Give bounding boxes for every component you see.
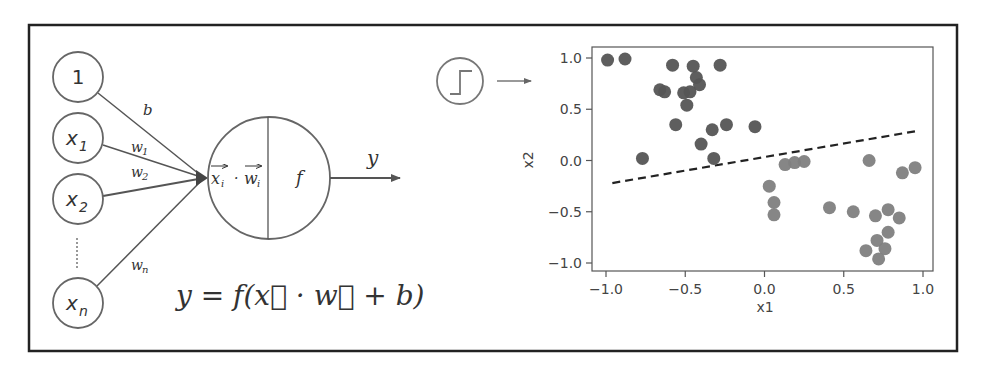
data-point-class-b [798,155,811,168]
weight-label-w2: w 2 [131,164,148,182]
input-node-bias: 1 [53,52,103,102]
sum-x-symbol: x [211,169,220,188]
input-node-x2: x 2 [53,174,103,224]
weight-subscript: 2 [141,171,148,182]
step-function-icon [437,58,483,104]
x-tick-label: 0.5 [833,281,855,297]
x-tick-label: 0.0 [753,281,775,297]
input-node-subscript: n [79,303,88,319]
data-point-class-b [896,166,909,179]
weight-subscript: 1 [142,146,148,157]
data-point-class-a [720,118,733,131]
x-tick-label: −1.0 [589,281,623,297]
x-axis-ticks: −1.0−0.50.00.51.0 [589,271,934,297]
data-point-class-a [666,59,679,72]
data-point-class-b [882,203,895,216]
data-point-class-b [882,226,895,239]
input-node-label: x [65,291,78,315]
y-tick-label: −0.5 [548,204,582,220]
weight-label-b: b [143,101,153,119]
data-point-class-a [601,54,614,67]
data-point-class-b [872,252,885,265]
y-tick-label: 0.0 [560,153,582,169]
data-point-class-a [680,99,693,112]
sum-w-symbol: w [244,169,258,188]
weighted-sum-label: x i · w i [211,166,261,189]
data-point-class-b [847,205,860,218]
data-point-class-b [768,208,781,221]
x-tick-label: 1.0 [912,281,934,297]
data-point-class-a [669,118,682,131]
data-point-class-a [748,120,761,133]
data-point-class-b [863,154,876,167]
y-axis-label: x2 [520,151,536,168]
sum-dot: · [234,170,238,186]
edge-x1 [103,145,204,178]
figure: 1 x 1 x 2 x n b w 1 [0,0,983,367]
neuron-diagram: 1 x 1 x 2 x n b w 1 [53,52,425,328]
data-point-class-a [706,123,719,136]
data-point-class-a [714,59,727,72]
convergence-arrow-icon [196,170,208,186]
data-point-class-a [687,60,700,73]
sum-x-subscript: i [221,178,224,189]
data-point-class-b [823,201,836,214]
input-node-label: x [65,126,78,150]
data-point-class-a [695,138,708,151]
y-tick-label: −1.0 [548,255,582,271]
input-node-label: x [65,187,78,211]
output-label: y [366,146,379,170]
data-point-class-a [684,85,697,98]
input-node-label: 1 [72,65,85,89]
data-point-class-a [658,85,671,98]
data-point-class-b [763,180,776,193]
data-point-class-a [707,152,720,165]
data-point-class-b [869,209,882,222]
neuron-body: x i · w i f [208,117,330,239]
y-axis-ticks: 1.00.50.0−0.5−1.0 [548,50,592,271]
sum-w-subscript: i [257,178,260,189]
y-tick-label: 0.5 [560,101,582,117]
data-point-class-b [909,161,922,174]
x-axis-label: x1 [756,299,773,315]
scatter-chart: 1.00.50.0−0.5−1.0 −1.0−0.50.00.51.0 x1 x… [520,47,934,315]
input-node-subscript: 1 [79,138,88,154]
data-point-class-a [619,53,632,66]
y-tick-label: 1.0 [560,50,582,66]
x-tick-label: −0.5 [668,281,702,297]
data-point-class-b [893,211,906,224]
weight-subscript: n [142,264,148,275]
data-point-class-b [768,196,781,209]
input-node-subscript: 2 [79,199,88,215]
weight-label-wn: w n [131,257,148,275]
weight-label-w1: w 1 [131,139,148,157]
input-node-xn: x n [53,278,103,328]
data-point-class-b [859,244,872,257]
input-node-x1: x 1 [53,113,103,163]
perceptron-formula: y = f(x⃗ · w⃗ + b) [174,279,425,312]
data-point-class-a [636,152,649,165]
